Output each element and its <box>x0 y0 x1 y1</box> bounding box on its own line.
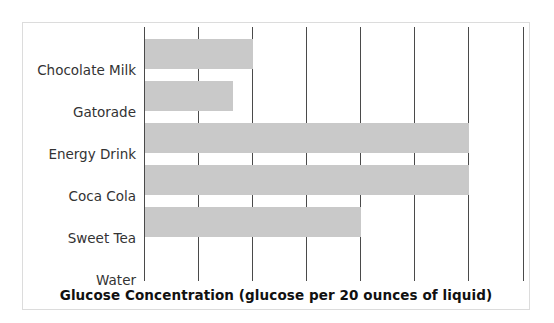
gridline-5 <box>414 27 415 281</box>
gridline-7 <box>523 27 524 281</box>
category-axis-labels: Chocolate Milk Gatorade Energy Drink Coc… <box>23 49 140 303</box>
gridline-3 <box>306 27 307 281</box>
chart-container: Chocolate Milk Gatorade Energy Drink Coc… <box>22 22 530 310</box>
category-label-water: Water <box>21 273 136 287</box>
bar-energy-drink <box>145 123 469 153</box>
gridline-4 <box>360 27 361 281</box>
category-label-energy-drink: Energy Drink <box>21 147 136 161</box>
category-label-sweet-tea: Sweet Tea <box>21 231 136 245</box>
plot-area <box>144 27 524 281</box>
bar-gatorade <box>145 81 233 111</box>
bar-coca-cola <box>145 165 469 195</box>
category-label-gatorade: Gatorade <box>21 105 136 119</box>
gridline-6 <box>468 27 469 281</box>
category-label-coca-cola: Coca Cola <box>21 189 136 203</box>
bar-sweet-tea <box>145 207 361 237</box>
axis-title: Glucose Concentration (glucose per 20 ou… <box>23 287 529 303</box>
bar-chocolate-milk <box>145 39 253 69</box>
category-label-chocolate-milk: Chocolate Milk <box>21 63 136 77</box>
